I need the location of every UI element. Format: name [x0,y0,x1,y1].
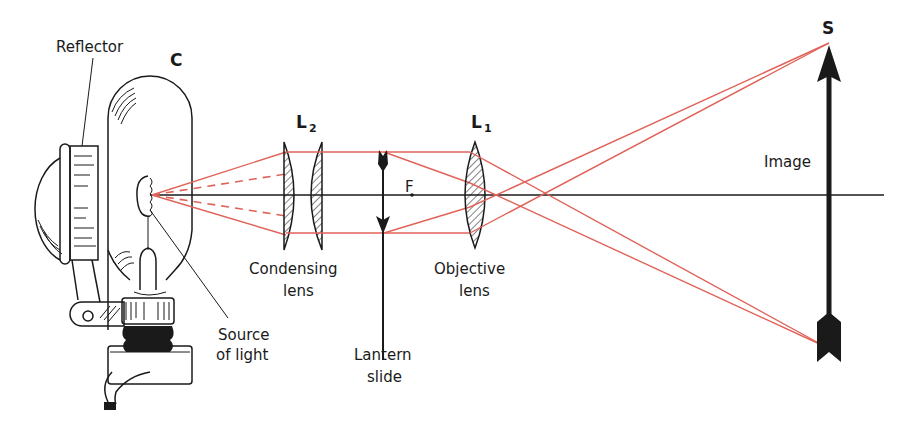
objective-label-line1: Objective [434,260,505,278]
projector-diagram: Reflector [0,0,909,436]
focal-point-dot [410,193,414,197]
condenser-label-line2: lens [283,282,314,300]
screen-label: S [822,18,834,38]
objective-label-line2: lens [459,282,490,300]
lantern-slide-arrow [376,150,390,360]
lamp-label: C [170,50,182,70]
condensing-lens [284,142,322,250]
condenser-symbol: L [296,112,307,132]
clamp-arm [70,302,124,326]
lamp-bulb [104,76,192,410]
objective-symbol: L [471,112,482,132]
reflector-label: Reflector [56,38,124,56]
source-leader [150,210,228,318]
condenser-label-line1: Condensing [249,260,337,278]
slide-label-line2: slide [367,368,402,386]
objective-subscript: 1 [484,122,492,135]
slide-label-line1: Lantern [354,346,412,364]
image-label: Image [764,153,811,171]
incident-rays [152,152,286,235]
image-arrow [817,45,841,362]
source-label-line2: of light [216,346,269,364]
source-label-line1: Source [218,326,270,344]
condenser-subscript: 2 [309,122,317,135]
reflector-leader [82,58,93,146]
reflector [35,144,100,302]
